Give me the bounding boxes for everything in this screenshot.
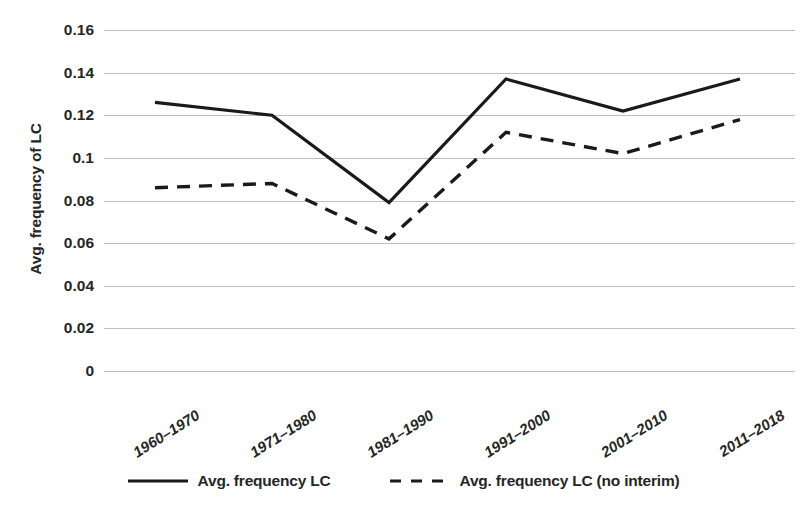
x-axis-tick-label: 2011–2018 [716,406,788,460]
legend-solid-line-icon [127,474,189,488]
x-axis-tick-label: 1971–1980 [247,406,320,460]
x-axis-tick-labels: 1960–19701971–19801981–19901991–20002001… [0,0,806,512]
legend-label: Avg. frequency LC (no interim) [460,472,680,490]
x-axis-tick-label: 1981–1990 [364,406,437,460]
chart-legend: Avg. frequency LCAvg. frequency LC (no i… [0,472,806,490]
legend-label: Avg. frequency LC [198,472,331,490]
x-axis-tick-label: 2001–2010 [598,406,671,460]
x-axis-tick-label: 1960–1970 [130,406,203,460]
x-axis-tick-label: 1991–2000 [481,406,554,460]
legend-item[interactable]: Avg. frequency LC [127,472,331,490]
legend-item[interactable]: Avg. frequency LC (no interim) [389,472,680,490]
legend-dashed-line-icon [389,474,451,488]
line-chart: Avg. frequency of LC 0.160.140.120.10.08… [0,0,806,512]
